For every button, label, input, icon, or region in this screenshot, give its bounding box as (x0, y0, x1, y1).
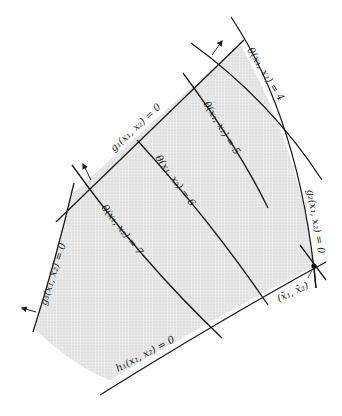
g1-arrow-icon-2 (212, 41, 222, 55)
g3-arrow-icon (22, 308, 36, 312)
optimum-point (311, 263, 316, 268)
g1-arrow-icon (83, 164, 91, 180)
optimization-diagram: g₁(x₁, x₂) = 0 g₃(x₁, x₂) = 0 g₂(x₁, x₂)… (0, 0, 342, 416)
